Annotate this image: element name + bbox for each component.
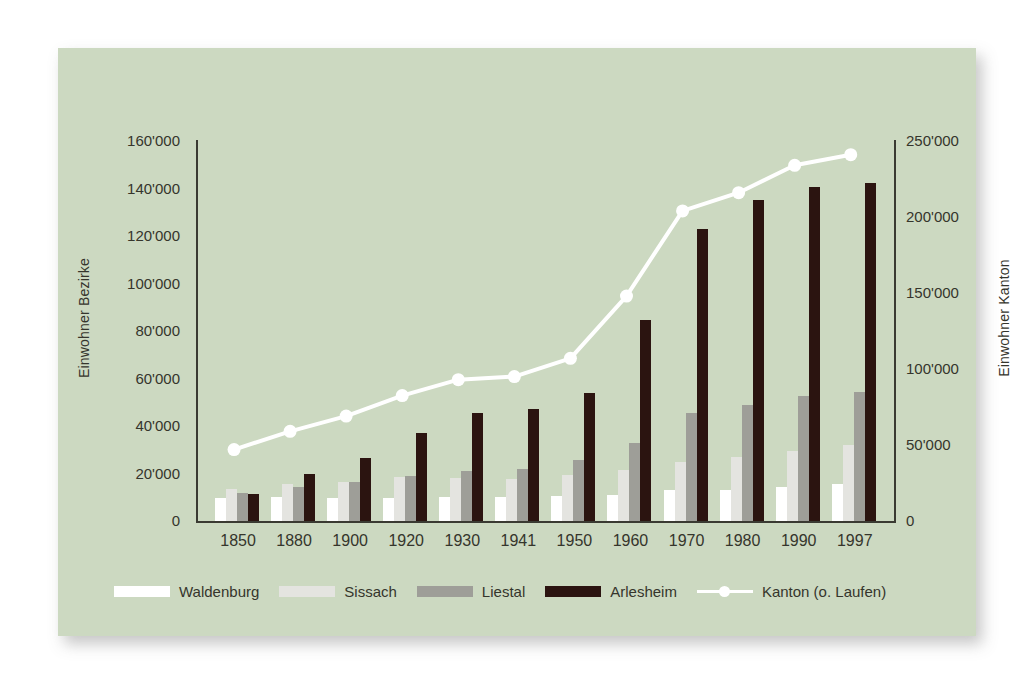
bar-liestal <box>629 443 640 521</box>
bar-group <box>664 141 708 521</box>
bar-sissach <box>787 451 798 521</box>
legend-swatch-liestal <box>417 586 473 597</box>
bar-arlesheim <box>248 494 259 521</box>
legend-label: Sissach <box>344 583 397 600</box>
bar-waldenburg <box>551 496 562 521</box>
bar-sissach <box>450 478 461 521</box>
bar-liestal <box>405 476 416 521</box>
bar-group <box>720 141 764 521</box>
x-tick-1880: 1880 <box>264 533 324 549</box>
x-tick-1930: 1930 <box>432 533 492 549</box>
legend-item: Kanton (o. Laufen) <box>697 583 886 600</box>
bar-sissach <box>562 475 573 521</box>
bar-sissach <box>675 462 686 521</box>
x-tick-1941: 1941 <box>488 533 548 549</box>
bar-waldenburg <box>215 498 226 521</box>
x-tick-1990: 1990 <box>769 533 829 549</box>
legend-label: Waldenburg <box>179 583 259 600</box>
bar-liestal <box>293 487 304 521</box>
bar-group <box>832 141 876 521</box>
bar-waldenburg <box>495 497 506 521</box>
bar-sissach <box>843 445 854 521</box>
bar-arlesheim <box>528 409 539 521</box>
bar-arlesheim <box>640 320 651 521</box>
x-tick-1980: 1980 <box>713 533 773 549</box>
bar-waldenburg <box>439 497 450 521</box>
bar-group <box>607 141 651 521</box>
legend-line-marker-icon <box>697 584 753 598</box>
bar-waldenburg <box>776 487 787 521</box>
legend-item: Liestal <box>417 583 525 600</box>
legend-swatch-waldenburg <box>114 586 170 597</box>
bar-liestal <box>237 493 248 522</box>
bar-waldenburg <box>720 490 731 521</box>
bar-group <box>495 141 539 521</box>
x-tick-1970: 1970 <box>657 533 717 549</box>
bar-sissach <box>731 457 742 521</box>
bar-group <box>551 141 595 521</box>
legend-item: Sissach <box>279 583 397 600</box>
bar-sissach <box>282 484 293 521</box>
bar-liestal <box>854 392 865 521</box>
bar-group <box>383 141 427 521</box>
bar-group <box>215 141 259 521</box>
bar-liestal <box>517 469 528 521</box>
legend-item: Waldenburg <box>114 583 259 600</box>
bar-arlesheim <box>865 183 876 521</box>
x-tick-1920: 1920 <box>376 533 436 549</box>
bar-waldenburg <box>607 495 618 521</box>
chart-card: 020'00040'00060'00080'000100'000120'0001… <box>58 48 976 636</box>
legend-item: Arlesheim <box>545 583 677 600</box>
bar-sissach <box>338 482 349 521</box>
bar-liestal <box>349 482 360 521</box>
bar-waldenburg <box>327 498 338 521</box>
x-tick-1950: 1950 <box>544 533 604 549</box>
legend-label: Kanton (o. Laufen) <box>762 583 886 600</box>
y-axis-right-title: Einwohner Kanton <box>996 238 1012 398</box>
bar-arlesheim <box>472 413 483 521</box>
bar-arlesheim <box>360 458 371 521</box>
bar-arlesheim <box>697 229 708 521</box>
bar-liestal <box>461 471 472 521</box>
legend-swatch-sissach <box>279 586 335 597</box>
bar-sissach <box>394 477 405 521</box>
bar-group <box>439 141 483 521</box>
bar-arlesheim <box>416 433 427 521</box>
bar-waldenburg <box>383 498 394 521</box>
x-tick-1960: 1960 <box>600 533 660 549</box>
bar-liestal <box>798 396 809 521</box>
bar-sissach <box>226 489 237 521</box>
bar-sissach <box>618 470 629 521</box>
bar-group <box>776 141 820 521</box>
bar-waldenburg <box>271 497 282 521</box>
bar-group <box>271 141 315 521</box>
bar-liestal <box>742 405 753 521</box>
legend-label: Liestal <box>482 583 525 600</box>
x-tick-1850: 1850 <box>208 533 268 549</box>
bar-waldenburg <box>664 490 675 521</box>
bar-waldenburg <box>832 484 843 521</box>
bar-group <box>327 141 371 521</box>
x-tick-1997: 1997 <box>825 533 885 549</box>
bar-liestal <box>686 413 697 521</box>
bar-sissach <box>506 479 517 521</box>
bar-arlesheim <box>304 474 315 522</box>
bar-arlesheim <box>584 393 595 521</box>
bar-arlesheim <box>753 200 764 521</box>
legend-swatch-arlesheim <box>545 586 601 597</box>
bar-liestal <box>573 460 584 521</box>
x-tick-1900: 1900 <box>320 533 380 549</box>
chart-legend: WaldenburgSissachLiestalArlesheimKanton … <box>114 578 924 604</box>
legend-label: Arlesheim <box>610 583 677 600</box>
bar-arlesheim <box>809 187 820 521</box>
